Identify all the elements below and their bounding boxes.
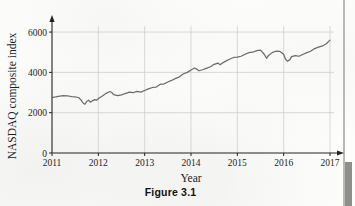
x-tick-label: 2014 [182,158,201,168]
x-tick-label: 2016 [274,158,293,168]
y-tick-label: 2000 [28,108,47,118]
figure-caption: Figure 3.1 [0,186,341,198]
x-axis-tick-labels: 2011201220132014201520162017 [43,158,340,168]
y-axis-tick-labels: 0200040006000 [28,28,47,159]
gridlines [52,26,334,153]
x-tick-label: 2013 [135,158,154,168]
y-tick-label: 6000 [28,28,47,38]
axes [49,15,344,156]
y-axis-label: NASDAQ composite index [6,33,19,160]
line-chart: 0200040006000 20112012201320142015201620… [0,0,355,206]
figure-container: 0200040006000 20112012201320142015201620… [0,0,355,206]
x-tick-label: 2011 [43,158,62,168]
y-tick-label: 4000 [28,68,47,78]
x-axis-arrow [337,150,344,155]
x-axis-label: Year [180,172,201,184]
tick-marks [49,32,330,156]
x-tick-label: 2012 [89,158,108,168]
x-tick-label: 2015 [228,158,247,168]
x-tick-label: 2017 [321,158,340,168]
y-axis-arrow [49,15,54,22]
